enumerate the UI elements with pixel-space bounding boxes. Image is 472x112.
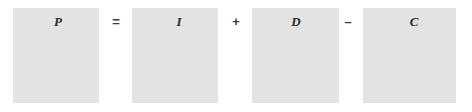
term-box-i — [132, 8, 218, 103]
term-label-d: D — [291, 15, 300, 28]
operator-equals: = — [112, 15, 120, 28]
operator-minus: – — [344, 15, 351, 28]
equation-diagram: P = I + D – C — [0, 0, 472, 112]
term-label-c: C — [410, 15, 419, 28]
term-label-i: I — [176, 15, 181, 28]
term-label-p: P — [54, 15, 62, 28]
operator-plus: + — [232, 15, 240, 28]
